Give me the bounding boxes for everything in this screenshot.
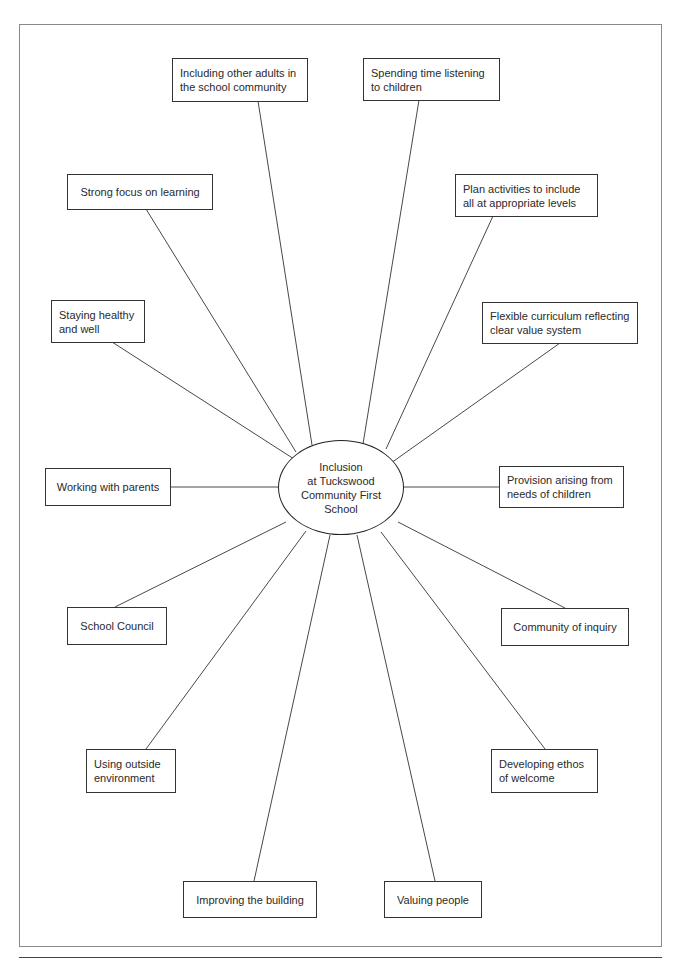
- hub-node: Inclusion at Tuckswood Community First S…: [278, 440, 404, 535]
- link-spending-time: [363, 100, 419, 444]
- node-valuing-people: Valuing people: [384, 881, 482, 918]
- node-flexible-curriculum: Flexible curriculum reflecting clear val…: [482, 302, 638, 344]
- link-staying-healthy: [112, 342, 294, 459]
- node-provision-needs: Provision arising from needs of children: [499, 466, 624, 508]
- node-using-outside: Using outside environment: [86, 749, 176, 793]
- node-developing-ethos: Developing ethos of welcome: [491, 749, 598, 793]
- link-community-inquiry: [398, 522, 565, 608]
- link-strong-focus: [146, 209, 296, 452]
- link-school-council: [115, 522, 286, 607]
- node-spending-time: Spending time listening to children: [363, 58, 500, 101]
- node-strong-focus: Strong focus on learning: [67, 174, 213, 210]
- node-label: Valuing people: [397, 893, 469, 907]
- node-working-parents: Working with parents: [45, 468, 171, 506]
- node-label: Community of inquiry: [513, 620, 616, 634]
- link-including-adults: [258, 101, 312, 445]
- node-label: Using outside environment: [94, 757, 161, 785]
- node-label: Staying healthy and well: [59, 308, 134, 336]
- node-label: School Council: [80, 619, 153, 633]
- hub-label: Inclusion at Tuckswood Community First S…: [301, 460, 381, 516]
- node-label: Developing ethos of welcome: [499, 757, 584, 785]
- link-plan-activities: [386, 216, 493, 449]
- node-label: Plan activities to include all at approp…: [463, 182, 580, 210]
- node-staying-healthy: Staying healthy and well: [51, 300, 145, 343]
- node-improving-building: Improving the building: [183, 881, 317, 918]
- node-including-adults: Including other adults in the school com…: [172, 58, 308, 102]
- node-label: Spending time listening to children: [371, 66, 485, 94]
- node-label: Strong focus on learning: [80, 185, 199, 199]
- link-flexible-curriculum: [391, 343, 560, 463]
- node-label: Improving the building: [196, 893, 304, 907]
- link-using-outside: [146, 531, 306, 749]
- node-school-council: School Council: [67, 607, 167, 645]
- node-community-inquiry: Community of inquiry: [501, 608, 629, 646]
- node-label: Flexible curriculum reflecting clear val…: [490, 309, 629, 337]
- node-label: Including other adults in the school com…: [180, 66, 296, 94]
- node-plan-activities: Plan activities to include all at approp…: [455, 174, 598, 217]
- link-valuing-people: [357, 535, 435, 881]
- node-label: Provision arising from needs of children: [507, 473, 613, 501]
- node-label: Working with parents: [57, 480, 160, 494]
